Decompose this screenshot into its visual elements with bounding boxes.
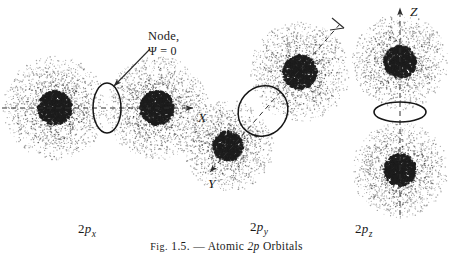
axis-label-y: Y [208, 177, 216, 191]
electron-density-stipple [3, 14, 448, 219]
orbital-diagram-canvas [0, 0, 453, 263]
caption-text-a: Atomic [208, 240, 245, 252]
figure-caption: Fig. 1.5. — Atomic 2p Orbitals [0, 240, 453, 252]
orbital-2py-subscript: y [264, 227, 269, 237]
orbital-label-2px: 2px [78, 222, 96, 239]
axis-label-x: X [198, 111, 206, 125]
orbital-2px-prefix: 2 [78, 221, 85, 236]
orbital-label-2pz: 2pz [355, 222, 373, 239]
axis-y-upper-arrowhead-2 [330, 28, 344, 30]
node-callout-label: Node, Ψ = 0 [148, 30, 179, 57]
caption-prefix: Fig. [150, 241, 168, 252]
orbital-2pz-letter: p [362, 221, 369, 236]
caption-text-b: 2p [247, 240, 259, 252]
orbital-2py-prefix: 2 [250, 219, 257, 234]
orbital-2px-letter: p [85, 221, 92, 236]
caption-number: 1.5. [171, 240, 190, 252]
node-ellipse-2px [93, 83, 121, 133]
orbital-vector-graphic [0, 0, 453, 263]
orbital-label-2py: 2py [250, 220, 268, 237]
orbital-2pz-prefix: 2 [355, 221, 362, 236]
orbital-2px-subscript: x [92, 229, 97, 239]
axis-label-z: Z [410, 5, 418, 19]
orbital-2pz-subscript: z [369, 229, 373, 239]
axis-line-y [210, 24, 340, 172]
caption-dash: — [193, 240, 205, 252]
callout-line-2: Ψ = 0 [148, 45, 179, 57]
callout-line-1: Node, [148, 30, 179, 43]
caption-text-c: Orbitals [263, 240, 303, 252]
atomic-orbitals-figure: Node, Ψ = 0 X Y Z 2px 2py 2pz Fig. 1.5. … [0, 0, 453, 263]
orbital-2py-letter: p [257, 219, 264, 234]
